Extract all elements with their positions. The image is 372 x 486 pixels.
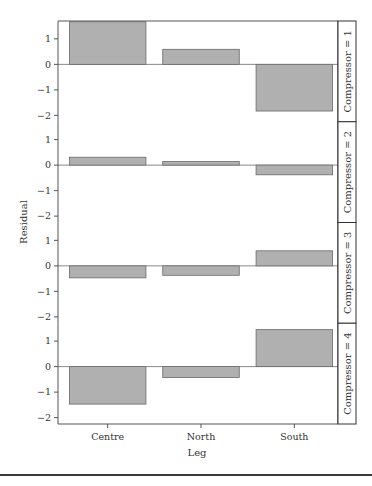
x-axis-title: Leg bbox=[188, 447, 208, 458]
y-tick-label: −1 bbox=[37, 185, 51, 196]
strip-label: Compressor = 3 bbox=[342, 232, 353, 314]
bar-centre bbox=[69, 367, 146, 404]
x-tick-label-south: South bbox=[280, 431, 308, 442]
bar-centre bbox=[69, 157, 146, 165]
panel-compressor-4: −2−101Compressor = 4 bbox=[37, 323, 356, 424]
bar-north bbox=[163, 367, 240, 378]
strip-label: Compressor = 2 bbox=[342, 131, 353, 213]
y-axis-title: Residual bbox=[18, 200, 29, 244]
y-tick-label: 1 bbox=[45, 33, 51, 44]
strip-label: Compressor = 1 bbox=[342, 30, 353, 112]
panel-compressor-3: −2−101Compressor = 3 bbox=[37, 223, 356, 324]
bar-north bbox=[163, 49, 240, 64]
y-tick-label: −2 bbox=[37, 412, 51, 423]
bar-north bbox=[163, 266, 240, 275]
y-tick-label: −1 bbox=[37, 286, 51, 297]
panel-compressor-1: −2−101Compressor = 1 bbox=[37, 21, 356, 122]
y-tick-label: −1 bbox=[37, 84, 51, 95]
bar-south bbox=[256, 330, 333, 367]
panel-compressor-2: −2−101Compressor = 2 bbox=[37, 122, 356, 223]
y-tick-label: 1 bbox=[45, 235, 51, 246]
y-tick-label: 0 bbox=[45, 361, 51, 372]
bar-south bbox=[256, 165, 333, 175]
y-tick-label: 0 bbox=[45, 159, 51, 170]
y-tick-label: −2 bbox=[37, 110, 51, 121]
bottom-rule bbox=[0, 474, 372, 476]
faceted-bar-chart: −2−101Compressor = 1−2−101Compressor = 2… bbox=[0, 0, 372, 486]
bar-centre bbox=[69, 22, 146, 65]
x-axis: CentreNorthSouth bbox=[58, 424, 338, 442]
y-tick-label: 0 bbox=[45, 260, 51, 271]
y-tick-label: 0 bbox=[45, 59, 51, 70]
y-tick-label: −1 bbox=[37, 386, 51, 397]
bar-centre bbox=[69, 266, 146, 278]
y-tick-label: 1 bbox=[45, 134, 51, 145]
y-tick-label: −2 bbox=[37, 311, 51, 322]
bar-south bbox=[256, 64, 333, 111]
bar-south bbox=[256, 251, 333, 266]
y-tick-label: −2 bbox=[37, 210, 51, 221]
bar-north bbox=[163, 162, 240, 166]
x-tick-label-centre: Centre bbox=[91, 431, 124, 442]
x-tick-label-north: North bbox=[187, 431, 216, 442]
strip-label: Compressor = 4 bbox=[342, 332, 353, 414]
panels-group: −2−101Compressor = 1−2−101Compressor = 2… bbox=[37, 21, 356, 424]
y-tick-label: 1 bbox=[45, 335, 51, 346]
